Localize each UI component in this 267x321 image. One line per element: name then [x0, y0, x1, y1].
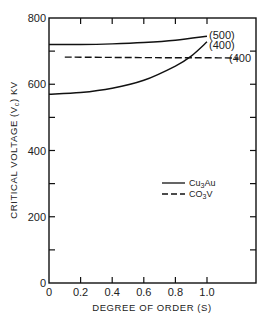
chart: 00.20.40.60.81.00200400600800 (500) (400… — [0, 0, 267, 321]
legend-solid-label: Cu3Au — [189, 178, 215, 189]
y-tick-label: 400 — [28, 145, 46, 157]
y-tick-label: 800 — [28, 12, 46, 24]
legend-dashed-label: CO3V — [189, 189, 212, 200]
y-tick-label: 0 — [40, 277, 46, 289]
series-line-1 — [49, 42, 207, 94]
x-tick-label: 0.2 — [73, 286, 88, 298]
series-line-0 — [49, 36, 207, 44]
x-tick-label: 1.0 — [199, 286, 214, 298]
ann-400-dashed: (400 — [229, 52, 251, 64]
x-tick-label: 0.8 — [168, 286, 183, 298]
x-tick-label: 0.4 — [105, 286, 120, 298]
legend: Cu3Au CO3V — [162, 178, 215, 200]
y-tick-label: 200 — [28, 211, 46, 223]
x-axis-title: DEGREE OF ORDER (S) — [92, 302, 212, 313]
series-line-2 — [65, 57, 239, 58]
y-axis-title: CRITICAL VOLTAGE (Vc) KV — [8, 81, 20, 219]
x-tick-label: 0 — [46, 286, 52, 298]
labels: (500) (400) (400 Cu3Au CO3V DEGREE OF OR… — [8, 29, 251, 313]
ann-400: (400) — [209, 39, 235, 51]
x-tick-label: 0.6 — [136, 286, 151, 298]
axes: 00.20.40.60.81.00200400600800 — [28, 12, 256, 298]
y-tick-label: 600 — [28, 78, 46, 90]
